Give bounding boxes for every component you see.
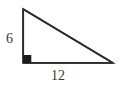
vertical-leg-label: 6 (0, 32, 19, 46)
triangle-hypotenuse (23, 9, 113, 63)
right-triangle-figure: 6 12 (0, 0, 124, 88)
right-angle-marker-icon (23, 55, 31, 63)
horizontal-leg-label: 12 (38, 69, 78, 83)
